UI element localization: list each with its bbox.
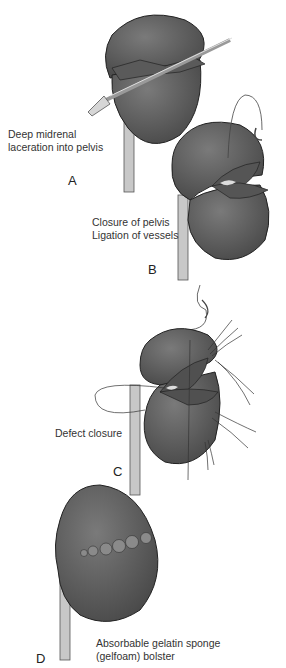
renal-repair-illustration xyxy=(0,0,286,668)
caption-b-line1: Closure of pelvis xyxy=(92,216,170,229)
caption-a-line1: Deep midrenal xyxy=(8,128,76,141)
panel-label-c: C xyxy=(113,464,122,479)
caption-d-line2: (gelfoam) bolster xyxy=(96,650,175,663)
caption-d-line1: Absorbable gelatin sponge xyxy=(96,637,220,650)
kidney-b xyxy=(172,95,269,318)
caption-a-line2: laceration into pelvis xyxy=(8,141,103,154)
panel-label-b: B xyxy=(148,262,157,277)
kidney-d xyxy=(55,485,157,660)
caption-b-line2: Ligation of vessels xyxy=(92,229,178,242)
panel-label-a: A xyxy=(68,173,77,188)
caption-c-line1: Defect closure xyxy=(55,427,122,440)
panel-label-d: D xyxy=(36,651,45,666)
